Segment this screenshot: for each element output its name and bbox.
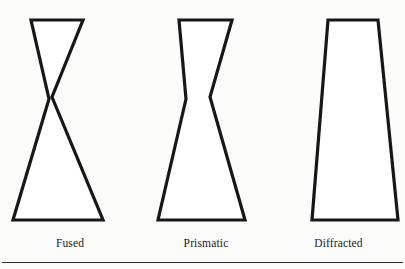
- caption-fused: Fused: [0, 236, 140, 250]
- caption-prismatic: Prismatic: [140, 236, 272, 250]
- shape-fused: [13, 20, 103, 220]
- caption-row: Fused Prismatic Diffracted: [0, 236, 405, 254]
- figure-container: Fused Prismatic Diffracted: [0, 0, 405, 269]
- caption-diffracted: Diffracted: [272, 236, 405, 250]
- shape-diffracted: [312, 20, 398, 220]
- shapes-diagram: [0, 0, 405, 269]
- bottom-rule: [2, 262, 403, 263]
- shape-prismatic: [158, 20, 245, 220]
